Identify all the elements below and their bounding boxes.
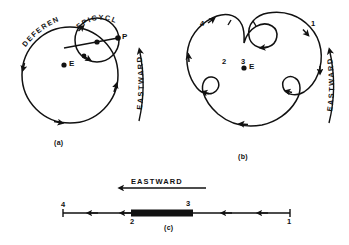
- earth-marker-a: [61, 62, 66, 67]
- eastward-label-c: EASTWARD: [131, 177, 183, 186]
- panel-c-graphics: [63, 188, 290, 217]
- epicycle-diagram-figure: EASTWARD DEFERENT EPICYCLE: [0, 0, 349, 245]
- position-label-b-2: 2: [222, 57, 226, 66]
- earth-label-b: E: [249, 62, 255, 71]
- position-label-b-4: 4: [200, 19, 204, 28]
- eastward-label-a: EASTWARD: [134, 55, 145, 110]
- planet-label-p: P: [122, 32, 128, 41]
- position-label-c-3: 3: [186, 199, 190, 208]
- epicycle-label: EPICYCLE: [0, 0, 119, 31]
- eastward-label-b: EASTWARD: [325, 57, 336, 112]
- caption-b: (b): [238, 153, 248, 160]
- earth-label-a: E: [69, 59, 75, 68]
- position-label-b-1: 1: [311, 19, 315, 28]
- position-label-b-3: 3: [241, 57, 245, 66]
- caption-a: (a): [54, 139, 63, 146]
- caption-c: (c): [164, 224, 173, 231]
- position-label-c-2: 2: [130, 217, 134, 226]
- deferent-circle: [22, 27, 118, 123]
- earth-marker-b: [241, 65, 246, 70]
- panel-a-graphics: EASTWARD DEFERENT EPICYCLE: [0, 0, 349, 245]
- deferent-label: DEFERENT: [0, 0, 61, 48]
- position-label-c-1: 1: [287, 217, 291, 226]
- position-label-c-4: 4: [61, 200, 65, 209]
